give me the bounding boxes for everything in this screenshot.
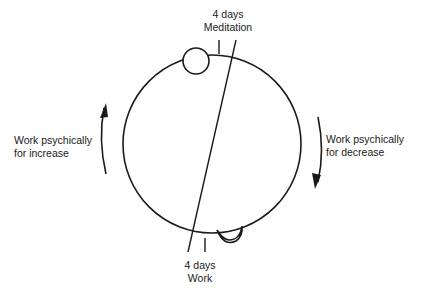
bottom-label-activity: Work (170, 272, 230, 285)
right-label: Work psychically for decrease (326, 133, 404, 159)
top-label: 4 days Meditation (193, 8, 263, 34)
top-label-activity: Meditation (193, 21, 263, 34)
left-label: Work psychically for increase (14, 134, 92, 160)
bottom-label: 4 days Work (170, 259, 230, 285)
arrow-down-head (312, 173, 321, 189)
right-label-line1: Work psychically (326, 133, 404, 146)
top-label-days: 4 days (193, 8, 263, 21)
left-label-line2: for increase (14, 147, 92, 160)
left-label-line1: Work psychically (14, 134, 92, 147)
full-moon-icon (183, 48, 209, 74)
arrow-up-head (100, 103, 108, 118)
arrow-down-icon (318, 117, 322, 182)
bottom-label-days: 4 days (170, 259, 230, 272)
right-label-line2: for decrease (326, 146, 404, 159)
arrow-up-icon (101, 108, 106, 174)
